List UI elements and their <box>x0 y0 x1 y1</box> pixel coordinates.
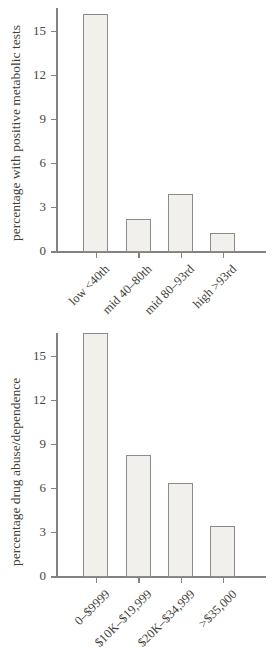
bar <box>168 483 193 577</box>
bar <box>126 455 151 577</box>
y-tick <box>51 163 56 165</box>
x-tick <box>181 578 183 583</box>
top-bar-chart: percentage with positive metabolic tests… <box>0 0 272 325</box>
y-tick <box>51 75 56 77</box>
bar <box>210 233 235 252</box>
x-tick-label: high >93rd <box>190 262 240 312</box>
bar <box>210 526 235 577</box>
y-tick-label: 0 <box>0 243 46 259</box>
bar <box>83 14 108 252</box>
y-axis-line <box>56 8 58 253</box>
y-tick <box>51 119 56 121</box>
x-tick <box>181 253 183 258</box>
y-tick <box>51 576 56 578</box>
y-tick <box>51 207 56 209</box>
y-tick-label: 3 <box>0 199 46 215</box>
y-tick-label: 12 <box>0 392 46 408</box>
y-tick <box>51 488 56 490</box>
x-tick <box>223 578 225 583</box>
x-tick <box>138 253 140 258</box>
bar <box>126 219 151 252</box>
y-tick <box>51 444 56 446</box>
y-tick <box>51 251 56 253</box>
y-tick-label: 15 <box>0 23 46 39</box>
y-tick-label: 9 <box>0 111 46 127</box>
x-tick-label: >$35,000 <box>196 587 240 631</box>
x-tick-label: 0–$9999 <box>72 587 114 629</box>
y-tick-label: 0 <box>0 568 46 584</box>
y-tick <box>51 400 56 402</box>
y-axis-line <box>56 333 58 578</box>
y-tick-label: 3 <box>0 524 46 540</box>
bar <box>168 194 193 252</box>
y-tick-label: 6 <box>0 155 46 171</box>
y-tick <box>51 31 56 33</box>
y-tick-label: 6 <box>0 480 46 496</box>
y-tick <box>51 356 56 358</box>
x-tick <box>96 253 98 258</box>
y-tick <box>51 532 56 534</box>
x-tick <box>223 253 225 258</box>
y-tick-label: 15 <box>0 348 46 364</box>
bottom-bar-chart: percentage drug abuse/dependence 0369121… <box>0 325 272 650</box>
x-tick <box>138 578 140 583</box>
y-tick-label: 12 <box>0 67 46 83</box>
y-tick-label: 9 <box>0 436 46 452</box>
x-tick <box>96 578 98 583</box>
bar <box>83 333 108 577</box>
